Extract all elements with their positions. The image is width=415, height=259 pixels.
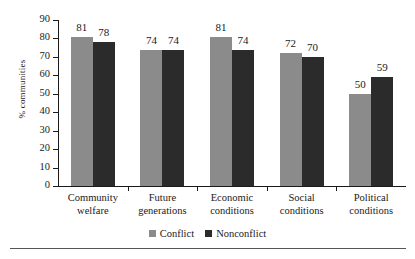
y-tick-label: 30 <box>40 124 51 135</box>
chart-legend: ConflictNonconflict <box>0 228 415 239</box>
x-axis-line <box>58 186 406 187</box>
y-tick: 10 <box>53 168 58 169</box>
y-tick-label: 10 <box>40 161 51 172</box>
y-tick: 60 <box>53 75 58 76</box>
bar-value-label: 74 <box>146 35 157 46</box>
y-tick: 50 <box>53 94 58 95</box>
bar-value-label: 72 <box>285 38 296 49</box>
category-label: Politicalconditions <box>328 192 414 217</box>
bar-nonconflict: 59 <box>371 77 393 186</box>
x-tick <box>197 186 198 191</box>
bar-nonconflict: 74 <box>162 50 184 186</box>
y-tick: 0 <box>53 186 58 187</box>
bar-nonconflict: 74 <box>232 50 254 186</box>
y-tick-label: 90 <box>40 13 51 24</box>
bar-nonconflict: 70 <box>302 57 324 186</box>
bar-group: 8174 <box>210 20 254 186</box>
bar-value-label: 74 <box>168 35 179 46</box>
y-tick: 90 <box>53 20 58 21</box>
y-tick-label: 60 <box>40 68 51 79</box>
bar-group: 7474 <box>140 20 184 186</box>
y-tick-label: 70 <box>40 50 51 61</box>
bar-value-label: 59 <box>377 62 388 73</box>
bar-group: 7270 <box>280 20 324 186</box>
legend-swatch-icon <box>149 230 156 237</box>
bar-chart-figure: % communities 0102030405060708090 817874… <box>0 0 415 259</box>
y-tick: 80 <box>53 38 58 39</box>
x-tick <box>336 186 337 191</box>
y-tick-label: 20 <box>40 142 51 153</box>
plot-area: 0102030405060708090 81787474817472705059… <box>58 20 406 186</box>
y-axis-title: % communities <box>17 19 27 159</box>
bar-value-label: 70 <box>307 42 318 53</box>
legend-label: Conflict <box>160 228 194 239</box>
x-tick <box>128 186 129 191</box>
y-tick: 30 <box>53 131 58 132</box>
bar-value-label: 50 <box>355 79 366 90</box>
y-tick: 70 <box>53 57 58 58</box>
bar-group: 5059 <box>349 20 393 186</box>
bar-conflict: 74 <box>140 50 162 186</box>
legend-swatch-icon <box>205 230 212 237</box>
bar-value-label: 81 <box>216 22 227 33</box>
bar-conflict: 81 <box>210 37 232 186</box>
bottom-divider <box>10 248 406 249</box>
category-label-line: conditions <box>328 205 414 218</box>
y-axis-line <box>58 20 59 186</box>
bar-group: 8178 <box>71 20 115 186</box>
bar-value-label: 78 <box>98 27 109 38</box>
bar-conflict: 72 <box>280 53 302 186</box>
bar-value-label: 81 <box>76 22 87 33</box>
bar-nonconflict: 78 <box>93 42 115 186</box>
legend-item-conflict[interactable]: Conflict <box>149 228 194 239</box>
y-tick: 20 <box>53 149 58 150</box>
category-label-line: Political <box>328 192 414 205</box>
y-tick-label: 50 <box>40 87 51 98</box>
y-tick-label: 80 <box>40 31 51 42</box>
x-tick <box>267 186 268 191</box>
bar-conflict: 50 <box>349 94 371 186</box>
bar-value-label: 74 <box>238 35 249 46</box>
legend-item-nonconflict[interactable]: Nonconflict <box>205 228 266 239</box>
y-tick: 40 <box>53 112 58 113</box>
legend-label: Nonconflict <box>216 228 266 239</box>
y-tick-label: 0 <box>45 179 50 190</box>
y-tick-label: 40 <box>40 105 51 116</box>
bar-conflict: 81 <box>71 37 93 186</box>
